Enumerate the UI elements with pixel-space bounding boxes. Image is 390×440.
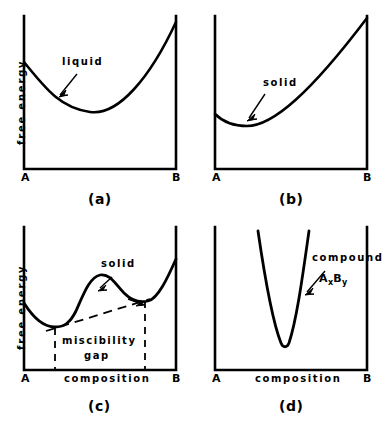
panel-d-compound-formula: AxBy bbox=[319, 273, 347, 287]
panel-d-curve-label-compound: compound bbox=[312, 253, 383, 263]
panel-a-plot bbox=[0, 0, 195, 220]
liquid-arrow-shaft bbox=[60, 74, 77, 95]
solid-arrow-shaft bbox=[249, 94, 265, 118]
axis-frame bbox=[24, 16, 176, 169]
panel-b-endpoint-b: B bbox=[363, 172, 371, 183]
panel-c: free energy solid miscibility gap A B co… bbox=[0, 215, 195, 435]
formula-subscript-y: y bbox=[342, 278, 347, 287]
panel-d-endpoint-a: A bbox=[212, 373, 221, 384]
panel-c-x-axis-label: composition bbox=[64, 374, 150, 384]
panel-a-endpoint-b: B bbox=[172, 172, 180, 183]
formula-element-a: A bbox=[319, 272, 328, 285]
panel-c-endpoint-a: A bbox=[21, 373, 30, 384]
panel-b-curve-label-solid: solid bbox=[263, 78, 298, 88]
solid-arrow-shaft bbox=[100, 277, 112, 288]
panel-c-y-axis-label: free energy bbox=[17, 265, 27, 350]
panel-c-miscibility-gap-label-line1: miscibility bbox=[62, 336, 136, 346]
panel-d-endpoint-b: B bbox=[363, 373, 371, 384]
free-energy-composition-figure: free energy liquid A B (a) solid A B (b) bbox=[0, 0, 390, 440]
solid-curve bbox=[215, 18, 367, 126]
panel-c-endpoint-b: B bbox=[172, 373, 180, 384]
axis-frame bbox=[215, 227, 367, 370]
compound-curve bbox=[258, 231, 309, 347]
panel-a-curve-label-liquid: liquid bbox=[62, 57, 103, 67]
axis-frame bbox=[215, 16, 367, 169]
formula-element-b: B bbox=[333, 272, 342, 285]
liquid-curve bbox=[24, 22, 176, 112]
panel-a: free energy liquid A B (a) bbox=[0, 0, 195, 220]
panel-c-caption: (c) bbox=[88, 399, 111, 413]
panel-d-caption: (d) bbox=[279, 399, 303, 413]
solid-curve bbox=[24, 259, 176, 327]
panel-d: compound AxBy A B composition (d) bbox=[195, 215, 390, 435]
panel-b-plot bbox=[195, 0, 390, 220]
panel-a-endpoint-a: A bbox=[21, 172, 30, 183]
panel-a-y-axis-label: free energy bbox=[17, 60, 27, 145]
panel-a-caption: (a) bbox=[88, 192, 112, 206]
panel-b-caption: (b) bbox=[279, 192, 303, 206]
panel-b: solid A B (b) bbox=[195, 0, 390, 220]
panel-b-endpoint-a: A bbox=[212, 172, 221, 183]
panel-c-curve-label-solid: solid bbox=[101, 259, 136, 269]
panel-c-miscibility-gap-label-line2: gap bbox=[84, 351, 110, 361]
panel-d-x-axis-label: composition bbox=[255, 374, 341, 384]
common-tangent-dashed bbox=[46, 299, 150, 331]
